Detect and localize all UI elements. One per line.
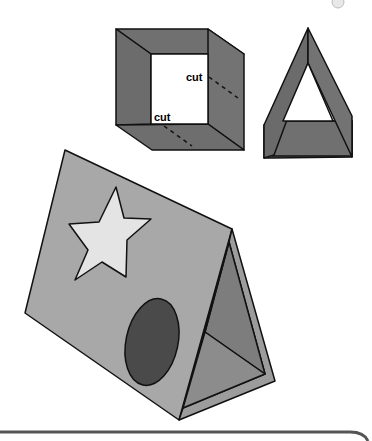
bottom-panel-border xyxy=(0,432,368,441)
folded-triangle-frame xyxy=(264,28,352,158)
finished-tent xyxy=(25,150,275,420)
cut-label-top: cut xyxy=(186,71,203,83)
corner-icon xyxy=(332,0,344,8)
diagram-canvas: cut cut xyxy=(0,0,372,441)
open-box: cut cut xyxy=(116,29,244,150)
cut-label-bottom: cut xyxy=(154,111,171,123)
